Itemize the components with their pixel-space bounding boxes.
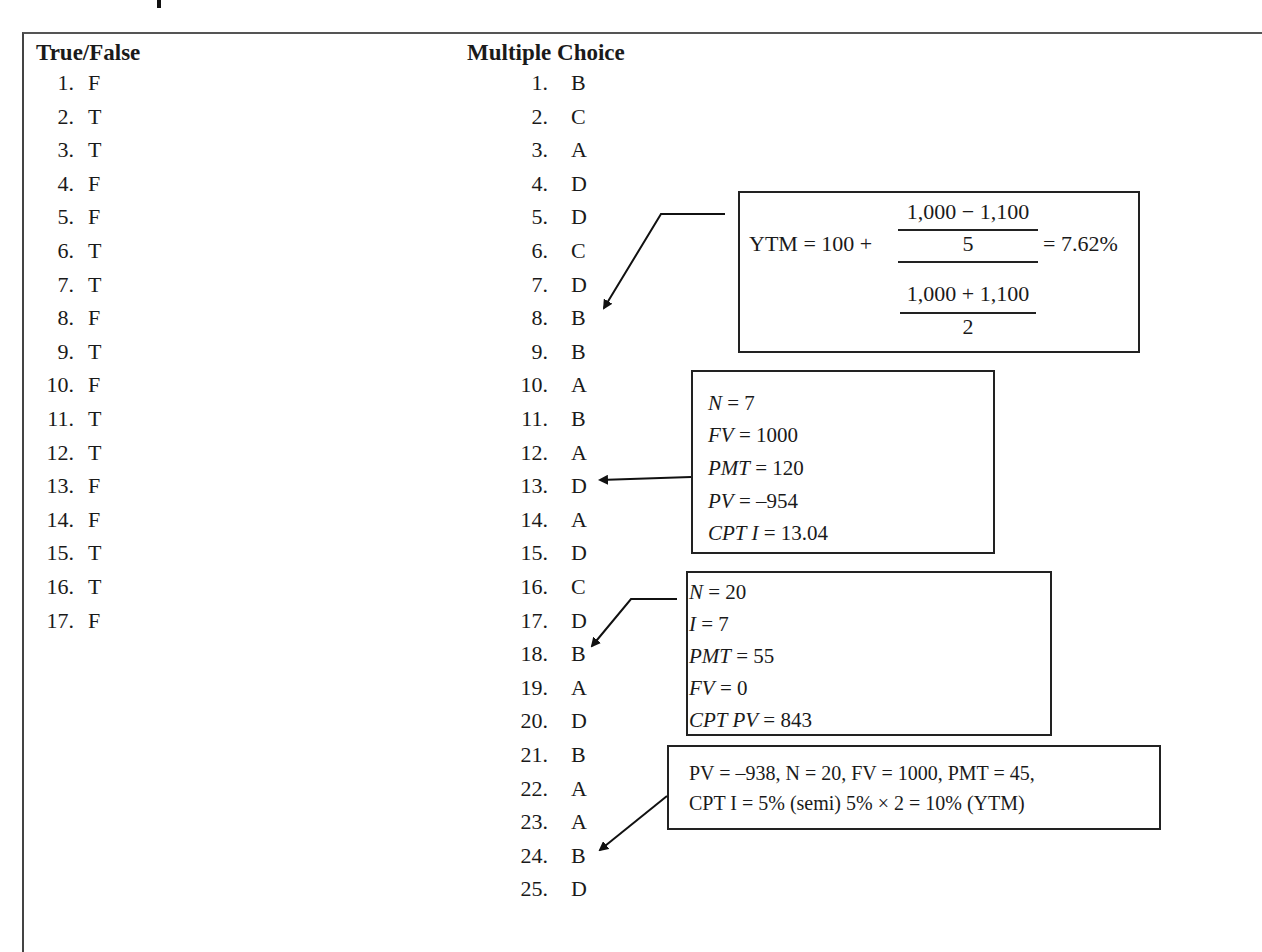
calc-value: = 0 xyxy=(720,676,748,700)
calc-value: = 7 xyxy=(701,612,729,636)
calc-var: N xyxy=(689,580,703,604)
calc-line: PMT = 120 xyxy=(708,455,804,481)
answer-letter: A xyxy=(571,438,587,468)
question-number: 21. xyxy=(0,740,548,770)
answer-row: 9.B xyxy=(0,337,611,367)
answer-letter: B xyxy=(571,337,586,367)
answer-letter: D xyxy=(571,706,587,736)
note-line-2: CPT I = 5% (semi) 5% × 2 = 10% (YTM) xyxy=(689,790,1025,816)
answer-letter: A xyxy=(571,370,587,400)
true-false-heading: True/False xyxy=(36,40,140,66)
ytm-main-fraction-bar xyxy=(898,261,1038,263)
question-number: 19. xyxy=(0,673,548,703)
answer-row: 25.D xyxy=(0,874,611,904)
calc-line: PV = –954 xyxy=(708,488,798,514)
answer-row: 10.A xyxy=(0,370,611,400)
answer-row: 19.A xyxy=(0,673,611,703)
answer-row: 17.D xyxy=(0,606,611,636)
answer-letter: D xyxy=(571,606,587,636)
calc-var: PMT xyxy=(708,456,750,480)
answer-row: 24.B xyxy=(0,841,611,871)
question-number: 18. xyxy=(0,639,548,669)
ytm-denominator-top: 1,000 + 1,100 xyxy=(898,281,1038,307)
calc-line: N = 7 xyxy=(708,390,755,416)
answer-row: 22.A xyxy=(0,774,611,804)
question-number: 3. xyxy=(0,135,548,165)
answer-row: 6.C xyxy=(0,236,611,266)
calc-value: = –954 xyxy=(739,489,798,513)
answer-row: 8.B xyxy=(0,303,611,333)
answer-letter: C xyxy=(571,236,586,266)
question-number: 7. xyxy=(0,270,548,300)
calc-box-q24: PV = –938, N = 20, FV = 1000, PMT = 45, … xyxy=(667,745,1161,830)
question-number: 1. xyxy=(0,68,548,98)
calc-value: = 843 xyxy=(763,708,812,732)
question-number: 23. xyxy=(0,807,548,837)
calc-var: FV xyxy=(689,676,715,700)
question-number: 25. xyxy=(0,874,548,904)
calc-line: FV = 0 xyxy=(689,675,748,701)
answer-letter: D xyxy=(571,202,587,232)
question-number: 13. xyxy=(0,471,548,501)
calc-var: PV xyxy=(708,489,734,513)
answer-letter: A xyxy=(571,807,587,837)
answer-letter: A xyxy=(571,774,587,804)
answer-row: 2.C xyxy=(0,102,611,132)
answer-row: 7.D xyxy=(0,270,611,300)
answer-row: 16.C xyxy=(0,572,611,602)
answer-letter: D xyxy=(571,874,587,904)
question-number: 14. xyxy=(0,505,548,535)
question-number: 9. xyxy=(0,337,548,367)
answer-row: 4.D xyxy=(0,169,611,199)
calc-var: CPT I xyxy=(708,521,758,545)
calc-line: FV = 1000 xyxy=(708,422,798,448)
question-number: 15. xyxy=(0,538,548,568)
calc-line: CPT I = 13.04 xyxy=(708,520,828,546)
question-number: 17. xyxy=(0,606,548,636)
calc-box-q13: N = 7 FV = 1000 PMT = 120 PV = –954 CPT … xyxy=(691,370,995,554)
answer-row: 13.D xyxy=(0,471,611,501)
answer-row: 23.A xyxy=(0,807,611,837)
answer-letter: D xyxy=(571,538,587,568)
answer-letter: B xyxy=(571,740,586,770)
calc-value: = 20 xyxy=(708,580,746,604)
ytm-numerator-top: 1,000 − 1,100 xyxy=(898,199,1038,225)
ytm-lhs: YTM = 100 + xyxy=(749,231,872,257)
answer-row: 21.B xyxy=(0,740,611,770)
calc-value: = 55 xyxy=(736,644,774,668)
calc-var: FV xyxy=(708,423,734,447)
calc-line: I = 7 xyxy=(689,611,729,637)
question-number: 20. xyxy=(0,706,548,736)
answer-letter: B xyxy=(571,303,586,333)
answer-row: 18.B xyxy=(0,639,611,669)
answer-letter: D xyxy=(571,270,587,300)
cropped-title-fragment xyxy=(157,0,161,8)
answer-letter: B xyxy=(571,841,586,871)
calc-value: = 13.04 xyxy=(764,521,828,545)
question-number: 5. xyxy=(0,202,548,232)
question-number: 10. xyxy=(0,370,548,400)
answer-letter: A xyxy=(571,135,587,165)
answer-letter: B xyxy=(571,68,586,98)
answer-row: 11.B xyxy=(0,404,611,434)
answer-row: 14.A xyxy=(0,505,611,535)
answer-row: 20.D xyxy=(0,706,611,736)
note-line-1: PV = –938, N = 20, FV = 1000, PMT = 45, xyxy=(689,760,1035,786)
calc-line: N = 20 xyxy=(689,579,746,605)
question-number: 2. xyxy=(0,102,548,132)
ytm-numerator-bottom: 5 xyxy=(898,231,1038,257)
calc-value: = 7 xyxy=(727,391,755,415)
calc-var: CPT PV xyxy=(689,708,758,732)
answer-letter: C xyxy=(571,572,586,602)
calc-line: PMT = 55 xyxy=(689,643,774,669)
answer-row: 12.A xyxy=(0,438,611,468)
answer-letter: D xyxy=(571,169,587,199)
calc-line: CPT PV = 843 xyxy=(689,707,812,733)
calc-var: PMT xyxy=(689,644,731,668)
question-number: 4. xyxy=(0,169,548,199)
answer-row: 15.D xyxy=(0,538,611,568)
ytm-result: = 7.62% xyxy=(1043,231,1118,257)
answer-row: 5.D xyxy=(0,202,611,232)
ytm-formula-box: YTM = 100 + 1,000 − 1,100 5 1,000 + 1,10… xyxy=(738,191,1140,353)
ytm-denominator-bottom: 2 xyxy=(898,314,1038,340)
